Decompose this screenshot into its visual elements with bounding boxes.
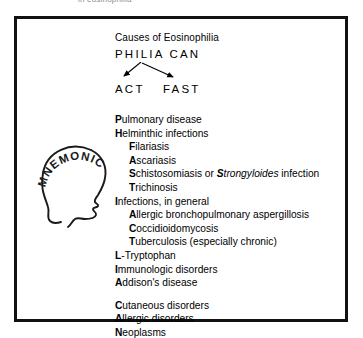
list-item-text: occidioidomycosis [136, 223, 218, 234]
figure-frame: Causes of Eosinophilia PHILIA CAN ACT FA… [14, 16, 348, 322]
list-item-text: mmunologic disorders [118, 264, 218, 275]
caption-fragment: in eosinophilia [78, 0, 132, 4]
list-item: Immunologic disorders [115, 263, 355, 277]
list-item: Infections, in general [115, 195, 355, 209]
list-item: Tuberculosis (especially chronic) [115, 235, 355, 249]
list-item-text: ulmonary disease [122, 114, 202, 125]
list-item: Addison's disease [115, 276, 355, 290]
list-item: Coccidioidomycosis [115, 222, 355, 236]
list-item-text: ilariasis [135, 141, 169, 152]
list-item: Helminthic infections [115, 127, 355, 141]
list-item: Schistosomiasis or Strongyloides infecti… [115, 167, 355, 181]
mnemonic-key-letter: P [115, 114, 122, 125]
list-item: L-Tryptophan [115, 249, 355, 263]
mnemonic-head-illustration: MNEMONIC [31, 137, 127, 243]
list-item: Allergic disorders [115, 312, 355, 326]
list-item-text: nfections, in general [118, 196, 209, 207]
list-item: Allergic bronchopulmonary aspergillosis [115, 208, 355, 222]
list-item-text: llergic disorders [122, 313, 193, 324]
list-item: Neoplasms [115, 326, 355, 338]
acronym-fast: FAST [163, 83, 201, 95]
arrow-to-fast [142, 63, 173, 77]
list-item-text: eoplasms [122, 327, 166, 338]
causes-list: Pulmonary diseaseHelminthic infectionsFi… [115, 113, 355, 338]
list-item-text: utaneous disorders [122, 300, 209, 311]
list-item-text: ddison's disease [122, 277, 197, 288]
list-item-text: elminthic infections [122, 128, 208, 139]
list-item: Pulmonary disease [115, 113, 355, 127]
list-item-text: richinosis [135, 182, 177, 193]
mnemonic-label: MNEMONIC [35, 149, 107, 188]
figure-title: Causes of Eosinophilia [115, 32, 345, 44]
list-item: Ascariasis [115, 154, 355, 168]
mnemonic-key-letter: S [129, 168, 136, 179]
species-name: trongyloides [224, 168, 279, 179]
list-item: Filariasis [115, 140, 355, 154]
acronym-act: ACT [115, 83, 145, 95]
list-item: Trichinosis [115, 181, 355, 195]
arrow-to-act [124, 62, 141, 76]
list-group-gap [115, 290, 355, 299]
list-item-text: llergic bronchopulmonary aspergillosis [136, 209, 309, 220]
list-item-text: scariasis [136, 155, 176, 166]
figure-header: Causes of Eosinophilia PHILIA CAN ACT FA… [115, 32, 345, 62]
list-item-text: uberculosis (especially chronic) [135, 236, 277, 247]
list-item-text: chistosomiasis or [136, 168, 217, 179]
acronym-philia-can: PHILIA CAN [115, 46, 345, 62]
list-item: Cutaneous disorders [115, 299, 355, 313]
list-item-tail: infection [279, 168, 320, 179]
list-item-text: -Tryptophan [121, 250, 176, 261]
mnemonic-key-letter-italic: S [217, 168, 224, 179]
